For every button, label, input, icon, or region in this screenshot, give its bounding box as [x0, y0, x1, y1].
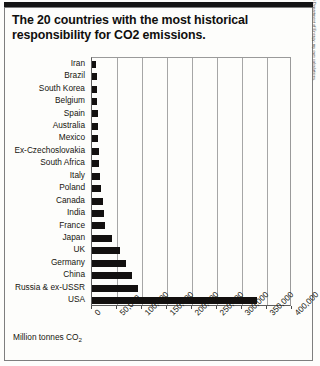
bar [92, 123, 98, 130]
bar-row [92, 133, 290, 145]
category-label: Australia [53, 121, 85, 130]
bar [92, 160, 99, 167]
x-tick-mark [141, 306, 142, 309]
bar-row [92, 245, 290, 257]
x-tick-mark [241, 306, 242, 309]
x-tick-mark [116, 306, 117, 309]
x-tick-mark [166, 306, 167, 309]
category-label: Poland [59, 183, 85, 192]
category-label: Belgium [55, 96, 85, 105]
bar-row [92, 95, 290, 107]
bar [92, 260, 126, 267]
chart-title: The 20 countries with the most historica… [12, 13, 262, 42]
bar-row [92, 120, 290, 132]
chart-figure: The 20 countries with the most historica… [0, 0, 320, 366]
bar-series [92, 58, 290, 305]
bar-row [92, 158, 290, 170]
x-tick-mark [91, 306, 92, 309]
category-label: USA [68, 295, 85, 304]
bar-row [92, 58, 290, 70]
bar-row [92, 83, 290, 95]
x-tick-mark [291, 306, 292, 309]
category-label: India [67, 208, 85, 217]
bar-row [92, 170, 290, 182]
bar [92, 285, 138, 292]
bar [92, 198, 103, 205]
bar [92, 98, 97, 105]
category-label: UK [73, 245, 85, 254]
bar-row [92, 70, 290, 82]
bar-row [92, 269, 290, 281]
bar-row [92, 207, 290, 219]
category-label: Germany [51, 258, 85, 267]
category-label: South Korea [39, 84, 85, 93]
category-label: Iran [71, 59, 85, 68]
x-tick-mark [266, 306, 267, 309]
bar-row [92, 232, 290, 244]
category-label: South Africa [40, 158, 85, 167]
bar [92, 272, 132, 279]
category-label: Mexico [59, 133, 85, 142]
bar [92, 185, 101, 192]
source-credit: Raw historical emissions data from the C… [310, 0, 319, 56]
bar [92, 73, 97, 80]
category-label: Japan [62, 233, 85, 242]
bar-row [92, 145, 290, 157]
bar-row [92, 257, 290, 269]
category-label: Ex-Czechoslovakia [14, 146, 85, 155]
bar [92, 110, 98, 117]
x-tick-mark [191, 306, 192, 309]
bar-row [92, 108, 290, 120]
bar [92, 61, 96, 68]
plot-area [91, 57, 291, 306]
x-axis-title-subscript: 2 [78, 336, 81, 343]
bar [92, 247, 120, 254]
bar [92, 210, 104, 217]
bar-row [92, 182, 290, 194]
category-label: Italy [70, 171, 85, 180]
bar [92, 235, 112, 242]
x-axis-title-text: Million tonnes CO [13, 332, 78, 342]
category-label: Brazil [64, 71, 85, 80]
bar-row [92, 195, 290, 207]
x-tick-mark [216, 306, 217, 309]
bar-row [92, 220, 290, 232]
bar [92, 86, 97, 93]
category-label: China [63, 270, 85, 279]
category-label: Spain [64, 109, 85, 118]
bar [92, 135, 98, 142]
bar [92, 148, 99, 155]
bar [92, 222, 105, 229]
category-label: Russia & ex-USSR [15, 283, 85, 292]
category-label: Canada [56, 196, 85, 205]
category-label: France [59, 221, 85, 230]
x-axis-title: Million tonnes CO2 [13, 332, 82, 342]
x-tick-label: 0 [93, 308, 103, 318]
bar [92, 173, 100, 180]
category-axis-labels: IranBrazilSouth KoreaBelgiumSpainAustral… [0, 57, 88, 306]
